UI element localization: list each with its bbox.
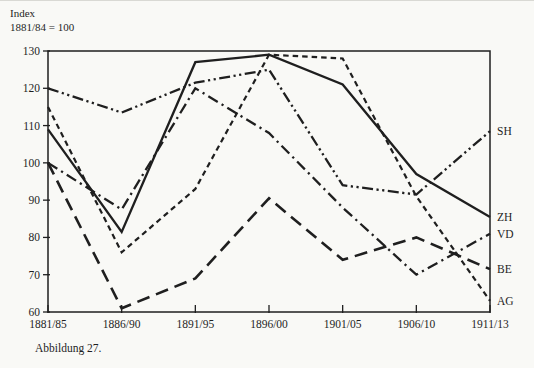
x-axis-tick-label: 1911/13 xyxy=(471,318,509,330)
figure-caption: Abbildung 27. xyxy=(35,342,101,354)
plot-frame xyxy=(48,51,490,312)
y-axis-tick-label: 120 xyxy=(23,82,41,94)
series-line-ZH xyxy=(48,55,490,232)
y-axis-tick-label: 130 xyxy=(23,45,41,57)
y-axis-tick-label: 70 xyxy=(29,269,41,281)
series-label-ZH: ZH xyxy=(497,211,512,223)
series-label-BE: BE xyxy=(497,263,512,275)
series-line-VD xyxy=(48,88,490,274)
y-axis-tick-label: 90 xyxy=(29,194,41,206)
x-axis-tick-label: 1881/85 xyxy=(29,318,67,330)
series-label-AG: AG xyxy=(497,295,514,307)
x-axis-tick-label: 1886/90 xyxy=(103,318,141,330)
y-axis-tick-label: 80 xyxy=(29,231,41,243)
x-axis-tick-label: 1906/10 xyxy=(397,318,435,330)
series-label-VD: VD xyxy=(497,228,514,240)
x-axis-tick-label: 1901/05 xyxy=(324,318,362,330)
y-axis-tick-label: 110 xyxy=(23,120,40,132)
x-axis-tick-label: 1891/95 xyxy=(176,318,214,330)
figure-page: Index1881/84 = 100 607080901001101201301… xyxy=(0,0,534,368)
line-chart: 607080901001101201301881/851886/901891/9… xyxy=(0,1,534,368)
x-axis-tick-label: 1896/00 xyxy=(250,318,288,330)
y-axis-tick-label: 60 xyxy=(29,306,41,318)
series-label-SH: SH xyxy=(497,125,512,137)
y-axis-tick-label: 100 xyxy=(23,157,41,169)
